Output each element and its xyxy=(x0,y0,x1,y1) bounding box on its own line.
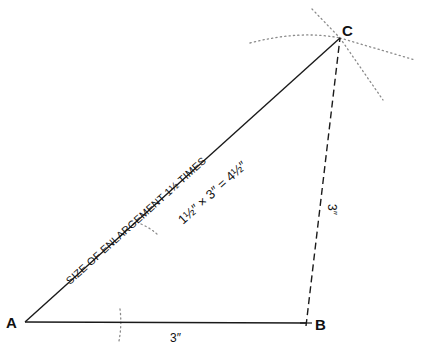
ab-length-label: 3″ xyxy=(170,331,182,345)
arc-through-c xyxy=(250,35,340,43)
enlargement-triangle-diagram: A B C 3″ 3″ SIZE OF ENLARGEMENT 1½ TIMES… xyxy=(0,0,425,351)
arc-on-ab xyxy=(119,309,121,341)
side-bc xyxy=(306,38,340,326)
construction-marks xyxy=(119,9,415,341)
ray-c-right xyxy=(340,38,415,60)
vertex-label-b: B xyxy=(315,316,326,333)
arc-below-ac xyxy=(141,224,157,234)
ray-c-upper-left xyxy=(312,9,340,38)
vertex-label-a: A xyxy=(6,314,17,331)
side-ab xyxy=(25,322,306,323)
bc-length-label: 3″ xyxy=(325,204,339,216)
vertex-label-c: C xyxy=(342,22,353,39)
ray-c-lower-right xyxy=(340,38,383,100)
